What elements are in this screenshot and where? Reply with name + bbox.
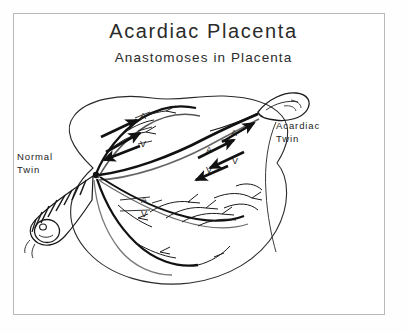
- vessel-letter-a-lower: A: [141, 196, 147, 205]
- vessel-letter-a-mid-lower: A: [206, 146, 212, 155]
- vessel-letter-a-mid-upper: A: [231, 129, 237, 138]
- label-normal-twin: Normal Twin: [17, 150, 53, 176]
- vessel-letter-a-left: A: [140, 112, 146, 121]
- label-acardiac-twin-line2: Twin: [276, 132, 320, 145]
- placenta-diagram-artwork: [0, 0, 407, 333]
- vessel-letter-v-lower: V: [141, 210, 147, 219]
- label-normal-twin-line1: Normal: [17, 150, 53, 163]
- label-normal-twin-line2: Twin: [17, 163, 53, 176]
- vessel-letter-v-mid-upper: V: [232, 157, 238, 166]
- figure-root: Acardiac Placenta Anastomoses in Placent…: [0, 0, 407, 333]
- label-acardiac-twin-line1: Acardiac: [276, 119, 320, 132]
- vessel-letter-v-mid-lower: V: [206, 166, 212, 175]
- label-acardiac-twin: Acardiac Twin: [276, 119, 320, 145]
- flow-arrows-right: [196, 123, 254, 180]
- vessel-letter-v-left: V: [140, 140, 146, 149]
